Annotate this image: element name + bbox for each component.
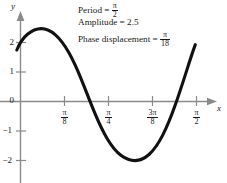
x-tick-label-pi-over-8: π 8 xyxy=(54,109,75,126)
x-axis-name: x xyxy=(217,104,221,113)
y-tick-label-neg-2: −2 xyxy=(0,156,12,165)
y-tick-label-2: 2 xyxy=(0,38,14,47)
x-tick-label-pi-over-4-den: 4 xyxy=(105,117,111,126)
graph-figure: Period = π 2 Amplitude = 2.5 Phase displ… xyxy=(0,0,227,183)
y-tick-label-0: 0 xyxy=(0,96,14,105)
y-axis-name: y xyxy=(11,2,15,11)
annotation-phase-denominator: 18 xyxy=(160,39,170,48)
x-tick-label-pi-over-8-num: π xyxy=(61,109,67,117)
annotation-amplitude: Amplitude = 2.5 xyxy=(78,18,139,27)
annotation-period-label: Period = xyxy=(78,5,109,15)
x-tick-label-3pi-over-8: 3π 8 xyxy=(142,109,163,126)
annotation-phase-displacement: Phase displacement = π 18 xyxy=(78,31,170,48)
x-axis-arrowhead xyxy=(207,98,217,105)
annotation-period-numerator: π xyxy=(112,2,118,10)
x-tick-label-3pi-over-8-den: 8 xyxy=(147,117,157,126)
annotation-period-fraction: π 2 xyxy=(112,2,118,19)
y-tick-label-1: 1 xyxy=(0,67,14,76)
x-tick-label-pi-over-4-num: π xyxy=(105,109,111,117)
x-tick-label-pi-over-4: π 4 xyxy=(98,109,119,126)
annotation-phase-numerator: π xyxy=(160,31,170,39)
x-tick-label-pi-over-2-den: 2 xyxy=(193,117,199,126)
annotation-phase-label: Phase displacement = xyxy=(78,34,158,44)
cosine-curve xyxy=(17,29,196,161)
x-tick-label-3pi-over-8-num: 3π xyxy=(147,109,157,117)
y-tick-label-neg-1: −1 xyxy=(0,126,12,135)
y-axis-arrowhead xyxy=(17,11,25,21)
x-tick-label-pi-over-2-num: π xyxy=(193,109,199,117)
annotation-phase-fraction: π 18 xyxy=(160,31,170,48)
x-tick-label-pi-over-8-den: 8 xyxy=(61,117,67,126)
x-tick-label-pi-over-2: π 2 xyxy=(186,109,207,126)
annotation-amplitude-label: Amplitude = 2.5 xyxy=(78,17,139,27)
